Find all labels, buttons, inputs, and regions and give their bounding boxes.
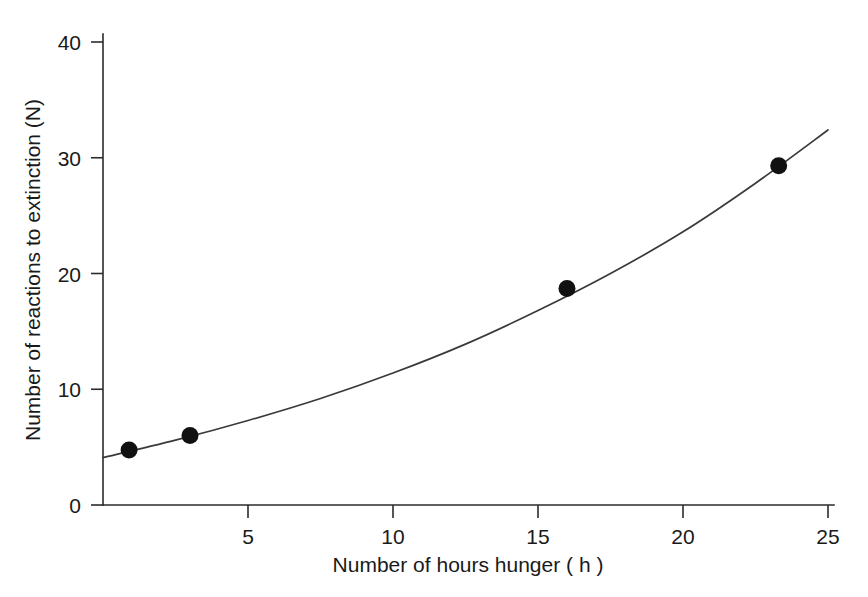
y-tick-label: 40 [58,31,81,54]
x-tick-label: 25 [816,525,839,548]
chart-svg: 010203040 510152025 Number of hours hung… [0,0,868,597]
x-axis-ticks: 510152025 [242,505,840,548]
y-tick-label: 20 [58,263,81,286]
data-point-marker [770,157,787,174]
y-tick-label: 10 [58,378,81,401]
y-axis-ticks: 010203040 [58,31,103,517]
x-tick-label: 20 [671,525,694,548]
y-tick-label: 0 [69,494,81,517]
axes-group [103,34,834,505]
y-axis-title: Number of reactions to extinction (N) [21,99,44,441]
x-tick-label: 5 [242,525,254,548]
x-tick-label: 15 [526,525,549,548]
x-axis-title: Number of hours hunger ( h ) [333,553,604,576]
data-series-group [103,130,828,459]
y-tick-label: 30 [58,147,81,170]
data-points-group [121,157,788,458]
data-point-marker [559,280,576,297]
data-point-marker [182,427,199,444]
chart-figure: 010203040 510152025 Number of hours hung… [0,0,868,597]
data-point-marker [121,442,138,459]
x-tick-label: 10 [381,525,404,548]
trend-curve [103,130,828,458]
